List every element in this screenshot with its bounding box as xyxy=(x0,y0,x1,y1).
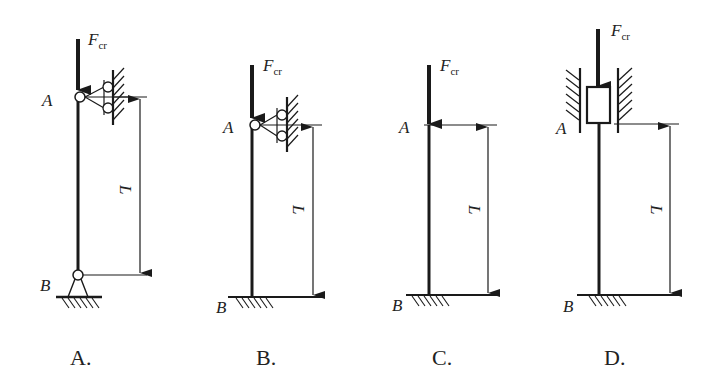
buckling-diagram: Fcr A B L A. Fcr xyxy=(0,0,705,382)
length-label-c: L xyxy=(465,204,484,214)
length-label-d: L xyxy=(647,204,666,214)
diagram-d xyxy=(566,29,679,306)
length-label-a: L xyxy=(116,184,135,194)
point-a-label-a: A xyxy=(41,91,53,110)
pin-b-top xyxy=(250,120,260,130)
roller-b-1 xyxy=(277,110,287,120)
point-b-label-c: B xyxy=(392,296,403,315)
point-b-label-a: B xyxy=(40,276,51,295)
option-label-d: D. xyxy=(604,345,625,370)
roller-a-1 xyxy=(103,82,113,92)
option-label-b: B. xyxy=(256,345,276,370)
diagram-a xyxy=(56,39,147,308)
pin-a-bottom xyxy=(73,270,83,280)
wall-hatch-b xyxy=(287,95,298,147)
force-label-a: Fcr xyxy=(87,30,107,51)
diagram-b xyxy=(228,65,322,308)
roller-a-2 xyxy=(103,103,113,113)
option-label-a: A. xyxy=(70,345,91,370)
point-a-label-c: A xyxy=(398,118,410,137)
point-a-label-d: A xyxy=(555,119,567,138)
option-label-c: C. xyxy=(432,345,452,370)
force-label-d: Fcr xyxy=(610,21,630,42)
pin-a-top xyxy=(75,92,85,102)
wall-hatch-d-right xyxy=(619,68,632,120)
length-label-b: L xyxy=(289,204,308,214)
force-label-c: Fcr xyxy=(439,56,459,77)
wall-hatch-a xyxy=(113,68,124,120)
slider-block-d xyxy=(587,87,610,123)
force-label-b: Fcr xyxy=(262,56,282,77)
point-b-label-b: B xyxy=(216,298,227,317)
roller-b-2 xyxy=(277,131,287,141)
wall-hatch-d-left xyxy=(566,70,579,120)
point-b-label-d: B xyxy=(563,297,574,316)
point-a-label-b: A xyxy=(222,118,234,137)
diagram-c xyxy=(406,65,497,306)
